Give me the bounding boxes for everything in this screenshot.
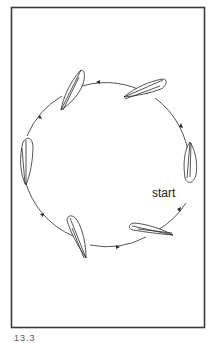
direction-arrows	[38, 80, 183, 249]
leaf-icon-upper-right	[124, 79, 166, 99]
leaf-icon-left	[21, 138, 33, 185]
circular-path	[25, 83, 189, 247]
frame-border	[12, 8, 205, 328]
figure-caption: 13.3	[14, 333, 36, 343]
arrow-icon	[40, 213, 44, 217]
leaf-icon-upper-left	[61, 70, 84, 110]
leaf-icon-lower-left	[67, 216, 86, 258]
leaf-icon-right	[184, 142, 197, 182]
start-label: start	[152, 186, 176, 200]
